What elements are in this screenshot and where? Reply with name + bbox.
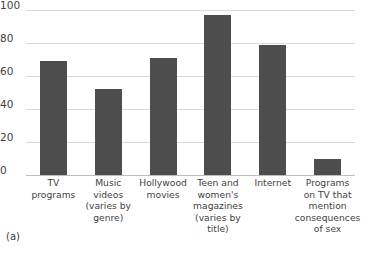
- x-axis-label-line: consequences: [294, 212, 361, 224]
- x-axis-label-line: on TV that: [294, 189, 361, 201]
- plot-area: [26, 10, 355, 175]
- y-tick-label-100: 100: [0, 0, 24, 11]
- x-axis-label-line: title): [185, 223, 252, 235]
- y-tick-label-20: 20: [0, 132, 24, 143]
- x-axis-label-line: women's: [185, 189, 252, 201]
- x-axis-label-line: (varies by: [185, 212, 252, 224]
- gridline-80: [26, 43, 355, 44]
- bar: [150, 58, 177, 175]
- y-tick-label-0: 0: [0, 165, 24, 176]
- gridline-100: [26, 10, 355, 11]
- gridline-20: [26, 142, 355, 143]
- x-axis-label: Programson TV thatmentionconsequencesof …: [294, 177, 361, 235]
- gridline-0: [26, 175, 355, 176]
- x-axis-label-line: Programs: [294, 177, 361, 189]
- bar: [204, 15, 231, 175]
- bar: [95, 89, 122, 175]
- x-axis-label-line: of sex: [294, 223, 361, 235]
- y-tick-label-80: 80: [0, 33, 24, 44]
- bar-chart-figure: 020406080100 TVprogramsMusicvideos(varie…: [0, 0, 365, 254]
- bar: [40, 61, 67, 175]
- y-tick-label-40: 40: [0, 99, 24, 110]
- panel-letter: (a): [6, 232, 20, 242]
- gridline-60: [26, 76, 355, 77]
- x-axis-label-line: (varies by: [75, 200, 142, 212]
- bar: [259, 45, 286, 175]
- x-axis-category-labels: TVprogramsMusicvideos(varies bygenre)Hol…: [26, 177, 355, 249]
- bar: [314, 159, 341, 176]
- x-axis-label-line: mention: [294, 200, 361, 212]
- x-axis-label-line: magazines: [185, 200, 252, 212]
- x-axis-label-line: genre): [75, 212, 142, 224]
- y-tick-label-60: 60: [0, 66, 24, 77]
- gridline-40: [26, 109, 355, 110]
